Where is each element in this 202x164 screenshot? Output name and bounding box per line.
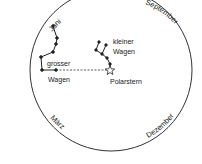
polaris-star-icon: [105, 66, 114, 75]
label-grosser: grosser: [47, 60, 71, 68]
label-polarstern: Polarstern: [110, 78, 142, 85]
month-label-maerz: März: [48, 113, 66, 131]
star-chart-diagram: Juni September März Dezember grosser Wag…: [0, 0, 202, 164]
label-wagen-little: Wagen: [113, 48, 135, 56]
label-kleiner: kleiner: [113, 38, 134, 45]
little-dipper-constellation: [95, 41, 111, 70]
month-label-dezember: Dezember: [145, 111, 176, 140]
month-label-september: September: [144, 0, 180, 26]
label-wagen-big: Wagen: [48, 76, 70, 84]
